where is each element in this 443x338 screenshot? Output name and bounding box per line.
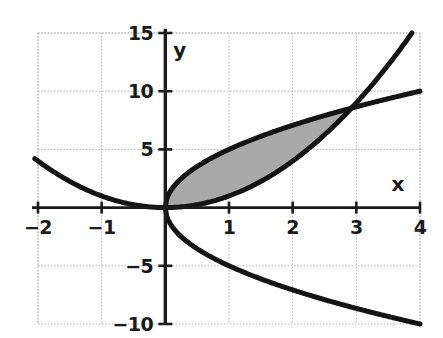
shaded-region xyxy=(165,103,356,208)
plot-canvas xyxy=(0,0,443,338)
y-tick-label: 15 xyxy=(128,24,153,43)
x-tick-label: −2 xyxy=(24,218,52,237)
x-axis-label: x xyxy=(392,174,405,194)
x-tick-label: 2 xyxy=(286,218,299,237)
x-tick-label: −1 xyxy=(88,218,116,237)
y-tick-label: −5 xyxy=(125,257,153,276)
math-plot-figure: −2−1123415105−5−10xy xyxy=(0,0,443,338)
x-tick-label: 1 xyxy=(223,218,236,237)
x-tick-label: 4 xyxy=(414,218,427,237)
y-tick-label: −10 xyxy=(112,315,153,334)
x-tick-label: 3 xyxy=(350,218,363,237)
y-tick-label: 5 xyxy=(141,140,154,159)
y-axis-label: y xyxy=(173,40,186,60)
y-tick-label: 10 xyxy=(128,82,153,101)
